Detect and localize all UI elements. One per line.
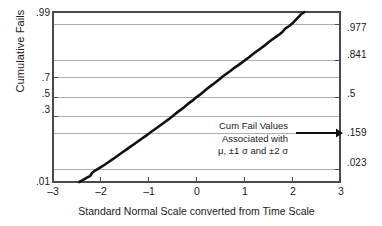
normal-probability-plot: Cumulative Fails Standard Normal Scale c… bbox=[0, 0, 382, 226]
x-tick-marks bbox=[53, 177, 340, 182]
plot-canvas bbox=[0, 0, 382, 226]
y-tick-marks-left bbox=[53, 12, 58, 182]
right-arrow-icon bbox=[296, 129, 343, 138]
y-tick-marks-right bbox=[335, 24, 340, 170]
